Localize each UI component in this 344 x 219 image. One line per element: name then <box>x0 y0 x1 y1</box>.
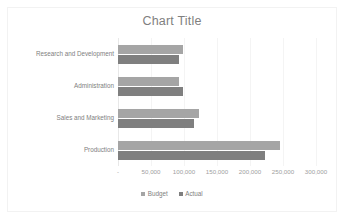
value-axis-tick: 200,000 <box>239 168 261 175</box>
bar-actual <box>118 55 179 64</box>
chart-screenshot: Chart Title Research and DevelopmentAdmi… <box>0 0 344 219</box>
bar-actual <box>118 87 183 96</box>
bar-actual <box>118 119 194 128</box>
plot-area <box>118 38 316 166</box>
legend-item-budget[interactable]: Budget <box>141 190 167 197</box>
bar-budget <box>118 45 183 54</box>
legend-swatch-icon <box>141 192 145 196</box>
value-axis-tick: 250,000 <box>272 168 294 175</box>
value-axis-tick: - <box>117 168 119 175</box>
legend-swatch-icon <box>179 192 183 196</box>
chart-title: Chart Title <box>0 14 344 28</box>
category-axis-labels: Research and DevelopmentAdministrationSa… <box>4 38 114 166</box>
value-axis-tick: 150,000 <box>206 168 228 175</box>
legend-label: Actual <box>185 190 203 197</box>
category-label: Production <box>4 147 114 153</box>
legend-label: Budget <box>148 190 168 197</box>
chart-legend: BudgetActual <box>0 190 344 197</box>
category-label: Administration <box>4 83 114 89</box>
plot-wrapper: Research and DevelopmentAdministrationSa… <box>0 38 344 166</box>
bar-budget <box>118 141 280 150</box>
bar-actual <box>118 151 265 160</box>
bar-budget <box>118 77 179 86</box>
value-axis-tick: 300,000 <box>305 168 327 175</box>
value-axis-labels: - 50,000100,000150,000200,000250,000300,… <box>0 168 344 182</box>
value-axis-tick: 50,000 <box>142 168 161 175</box>
gridline <box>316 38 317 166</box>
gridline <box>283 38 284 166</box>
value-axis-tick: 100,000 <box>173 168 195 175</box>
category-label: Research and Development <box>4 51 114 57</box>
category-label: Sales and Marketing <box>4 115 114 121</box>
legend-item-actual[interactable]: Actual <box>179 190 203 197</box>
bar-budget <box>118 109 199 118</box>
